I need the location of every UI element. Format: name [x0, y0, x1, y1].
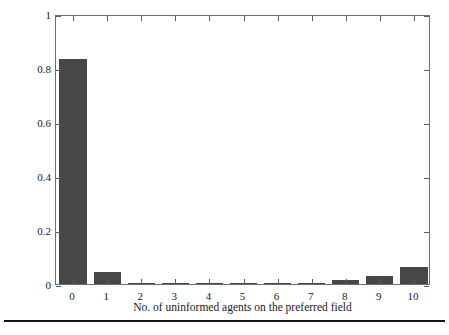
x-tick-mark [414, 279, 415, 284]
y-tick-mark [56, 16, 61, 17]
y-tick-label: 0 [3, 280, 51, 291]
y-tick-label: 0.6 [3, 118, 51, 129]
x-tick-mark-top [278, 16, 279, 21]
x-tick-mark-top [175, 16, 176, 21]
x-tick-mark [73, 279, 74, 284]
y-tick-mark-right [424, 16, 429, 17]
footer-rule [4, 320, 445, 322]
x-tick-mark-top [312, 16, 313, 21]
x-tick-mark [107, 279, 108, 284]
x-tick-mark-top [414, 16, 415, 21]
x-tick-mark [141, 279, 142, 284]
x-tick-mark [380, 279, 381, 284]
x-tick-mark [244, 279, 245, 284]
x-tick-mark [209, 279, 210, 284]
x-tick-mark [278, 279, 279, 284]
x-tick-mark-top [244, 16, 245, 21]
y-tick-label: 0.2 [3, 226, 51, 237]
x-tick-mark [175, 279, 176, 284]
y-tick-mark [56, 232, 61, 233]
bar-series [56, 16, 429, 284]
y-tick-label: 0.4 [3, 172, 51, 183]
y-tick-mark-right [424, 232, 429, 233]
x-tick-mark [312, 279, 313, 284]
y-tick-mark [56, 70, 61, 71]
y-tick-mark-right [424, 124, 429, 125]
x-tick-mark-top [107, 16, 108, 21]
y-tick-mark-right [424, 286, 429, 287]
y-tick-mark-right [424, 70, 429, 71]
x-tick-mark-top [73, 16, 74, 21]
bar [59, 59, 86, 284]
y-tick-mark [56, 178, 61, 179]
y-tick-label: 0.8 [3, 64, 51, 75]
y-tick-mark [56, 124, 61, 125]
x-tick-mark-top [141, 16, 142, 21]
plot-area [55, 15, 430, 285]
y-tick-mark [56, 286, 61, 287]
x-tick-mark [346, 279, 347, 284]
x-tick-mark-top [346, 16, 347, 21]
x-tick-mark-top [209, 16, 210, 21]
y-tick-label: 1 [3, 10, 51, 21]
figure-canvas: 00.20.40.60.81 012345678910 No. of uninf… [0, 0, 449, 335]
x-axis-title: No. of uninformed agents on the preferre… [55, 301, 430, 314]
y-tick-mark-right [424, 178, 429, 179]
x-tick-mark-top [380, 16, 381, 21]
